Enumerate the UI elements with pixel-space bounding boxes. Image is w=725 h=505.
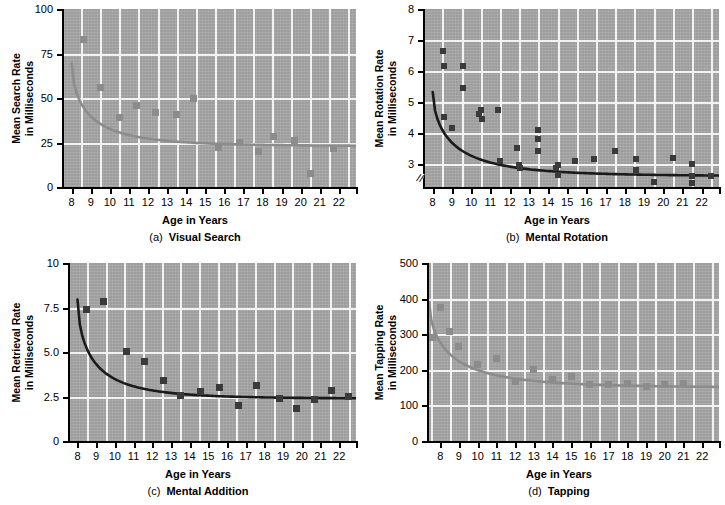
x-axis-line bbox=[427, 441, 721, 443]
x-tick-mark bbox=[77, 443, 79, 448]
y-tick-label: 10 bbox=[25, 258, 59, 269]
x-tick-mark bbox=[683, 443, 685, 448]
data-point-marker bbox=[236, 139, 243, 146]
x-tick-mark bbox=[534, 443, 536, 448]
data-point-marker bbox=[689, 161, 695, 167]
x-tick-mark bbox=[586, 189, 588, 194]
data-point-marker bbox=[495, 107, 501, 113]
x-tick-mark bbox=[339, 189, 341, 194]
y-tick-mark bbox=[57, 9, 63, 11]
y-tick-label: 0 bbox=[25, 436, 59, 447]
x-tick-mark bbox=[646, 443, 648, 448]
x-tick-mark bbox=[356, 189, 358, 194]
panel-caption-prefix: (d) bbox=[528, 485, 541, 497]
y-tick-mark bbox=[63, 352, 69, 354]
x-tick-mark bbox=[719, 189, 721, 194]
x-tick-mark bbox=[663, 189, 665, 194]
panel-caption-prefix: (c) bbox=[147, 485, 160, 497]
x-tick-mark bbox=[548, 189, 550, 194]
plot-area bbox=[425, 9, 719, 187]
panel-caption: (c) Mental Addition bbox=[0, 485, 362, 497]
data-point-marker bbox=[497, 158, 503, 164]
y-tick-mark bbox=[418, 133, 424, 135]
plot-area bbox=[70, 263, 356, 441]
x-tick-mark bbox=[205, 189, 207, 194]
data-point-marker bbox=[197, 388, 204, 395]
y-tick-label: 3 bbox=[380, 159, 414, 170]
y-axis-line bbox=[427, 263, 429, 443]
data-point-marker bbox=[330, 145, 337, 152]
y-tick-label: 6 bbox=[380, 66, 414, 77]
panel-caption: (b) Mental Rotation bbox=[363, 231, 725, 243]
y-tick-label: 500 bbox=[384, 258, 418, 269]
data-point-marker bbox=[689, 180, 695, 186]
y-tick-mark bbox=[418, 164, 424, 166]
y-tick-label: 4 bbox=[380, 128, 414, 139]
x-tick-mark bbox=[515, 443, 517, 448]
y-axis-line bbox=[423, 9, 425, 189]
y-tick-label: 25 bbox=[19, 138, 53, 149]
data-point-marker bbox=[345, 393, 352, 400]
panel-caption: (d) Tapping bbox=[363, 485, 725, 497]
data-point-marker bbox=[661, 381, 668, 388]
panel-caption-title: Tapping bbox=[548, 485, 590, 497]
panel-caption-title: Mental Addition bbox=[166, 485, 248, 497]
x-tick-mark bbox=[571, 443, 573, 448]
x-tick-mark bbox=[702, 189, 704, 194]
fitted-curve bbox=[70, 263, 356, 441]
data-point-marker bbox=[441, 63, 447, 69]
data-point-marker bbox=[255, 148, 262, 155]
data-point-marker bbox=[123, 348, 130, 355]
data-point-marker bbox=[586, 381, 593, 388]
x-tick-mark bbox=[471, 189, 473, 194]
data-point-marker bbox=[446, 328, 453, 335]
data-point-marker bbox=[216, 384, 223, 391]
y-tick-label: 2.5 bbox=[25, 392, 59, 403]
data-point-marker bbox=[455, 343, 462, 350]
x-tick-mark bbox=[301, 189, 303, 194]
x-tick-mark bbox=[208, 443, 210, 448]
data-point-marker bbox=[460, 85, 466, 91]
plot-area bbox=[429, 263, 719, 441]
y-tick-mark bbox=[422, 405, 428, 407]
x-axis-line bbox=[423, 187, 721, 189]
data-point-marker bbox=[624, 380, 631, 387]
panel-d-tapping: Mean Tapping Rate in Milliseconds0100200… bbox=[363, 253, 725, 505]
x-tick-mark bbox=[490, 189, 492, 194]
y-tick-label: 100 bbox=[384, 400, 418, 411]
y-axis-label: Mean Tapping Rate in Milliseconds bbox=[373, 249, 398, 457]
data-point-marker bbox=[160, 377, 167, 384]
x-tick-mark bbox=[590, 443, 592, 448]
y-tick-label: 0 bbox=[19, 182, 53, 193]
data-point-marker bbox=[293, 405, 300, 412]
panel-caption-prefix: (a) bbox=[149, 231, 162, 243]
x-tick-mark bbox=[552, 443, 554, 448]
x-axis-label: Age in Years bbox=[0, 468, 362, 480]
x-tick-mark bbox=[134, 443, 136, 448]
y-tick-mark bbox=[63, 308, 69, 310]
x-tick-mark bbox=[72, 189, 74, 194]
data-point-marker bbox=[474, 361, 481, 368]
x-tick-mark bbox=[496, 443, 498, 448]
y-tick-label: 7.5 bbox=[25, 303, 59, 314]
x-tick-mark bbox=[283, 443, 285, 448]
x-tick-mark bbox=[246, 443, 248, 448]
y-tick-mark bbox=[418, 71, 424, 73]
data-point-marker bbox=[440, 48, 446, 54]
x-tick-mark bbox=[644, 189, 646, 194]
x-tick-mark bbox=[302, 443, 304, 448]
x-tick-mark bbox=[609, 443, 611, 448]
data-point-marker bbox=[152, 109, 159, 116]
x-axis-line bbox=[68, 441, 358, 443]
data-point-marker bbox=[689, 173, 695, 179]
data-point-marker bbox=[328, 387, 335, 394]
data-point-marker bbox=[429, 334, 436, 341]
x-tick-mark bbox=[152, 443, 154, 448]
x-tick-mark bbox=[567, 189, 569, 194]
data-point-marker bbox=[605, 381, 612, 388]
data-point-marker bbox=[708, 173, 714, 179]
x-tick-mark bbox=[433, 189, 435, 194]
data-point-marker bbox=[97, 84, 104, 91]
x-tick-mark bbox=[459, 443, 461, 448]
y-tick-label: 75 bbox=[19, 49, 53, 60]
